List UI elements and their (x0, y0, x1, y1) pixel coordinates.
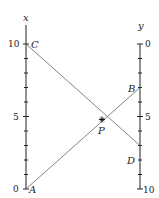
point-c-label: C (31, 39, 39, 50)
y-axis: y 0 5 10 (137, 20, 155, 195)
y-tick-10: 10 (143, 185, 155, 195)
line-ab (26, 88, 140, 190)
point-a-label: A (28, 184, 36, 195)
line-cd (26, 44, 140, 146)
point-d-label: D (126, 155, 135, 166)
point-b-label: B (127, 83, 135, 94)
y-tick-5: 5 (145, 112, 151, 122)
y-axis-label: y (137, 20, 144, 31)
point-p-label: P (97, 125, 105, 136)
x-tick-5: 5 (13, 112, 19, 122)
intersection-marker-icon (99, 117, 105, 123)
y-tick-0: 0 (145, 39, 151, 49)
x-axis-label: x (23, 12, 29, 23)
x-tick-10: 10 (8, 39, 20, 49)
x-tick-0: 0 (13, 184, 19, 194)
x-axis: x 0 5 10 (8, 12, 29, 194)
nomogram-diagram: x 0 5 10 y 0 5 10 A (0, 0, 159, 198)
